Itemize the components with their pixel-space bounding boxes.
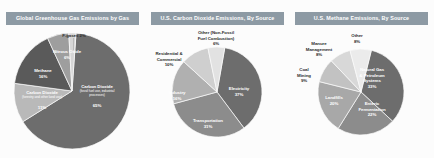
slice-label-fgases: F-gases 2% xyxy=(52,28,96,44)
slice-label-methane: Methane 16% xyxy=(27,63,59,85)
chart-panel-global-ghg: Global Greenhouse Gas Emissions by Gas F… xyxy=(0,0,145,158)
slice-label-co2-land-use: Carbon Dioxide (forestry and other land … xyxy=(19,85,65,116)
slice-label-industry: Industry 16% xyxy=(162,85,192,107)
slice-label-natural-gas-petroleum: Natural Gas & Petroleum Systems 33% xyxy=(351,62,393,94)
chart-panel-us-co2: U.S. Carbon Dioxide Emissions, By Source… xyxy=(145,0,290,158)
slice-label-residential-commercial: Residential & Commercial 10% xyxy=(146,46,192,73)
slice-label-transportation: Transportation 31% xyxy=(184,113,232,135)
chart-title-global-ghg: Global Greenhouse Gas Emissions by Gas xyxy=(6,12,139,25)
chart-title-us-methane: U.S. Methane Emissions, By Source xyxy=(295,12,428,25)
slice-label-other: Other 8% xyxy=(344,28,370,50)
three-pie-chart-figure: Global Greenhouse Gas Emissions by Gas F… xyxy=(0,0,434,158)
chart-panel-us-methane: U.S. Methane Emissions, By Source Other … xyxy=(289,0,434,158)
chart-title-us-co2: U.S. Carbon Dioxide Emissions, By Source xyxy=(151,12,284,25)
slice-label-landfills: Landfills 20% xyxy=(317,90,351,112)
slice-label-enteric-fermentation: Enteric Fermentation 22% xyxy=(351,96,393,123)
slice-label-electricity: Electricity 37% xyxy=(221,81,257,103)
slice-label-co2-fossil: Carbon Dioxide (fossil fuel use, industr… xyxy=(72,79,122,113)
slice-label-manure-management: Manure Management 8% xyxy=(297,36,341,63)
slice-label-coal-mining: Coal Mining 9% xyxy=(291,62,317,89)
